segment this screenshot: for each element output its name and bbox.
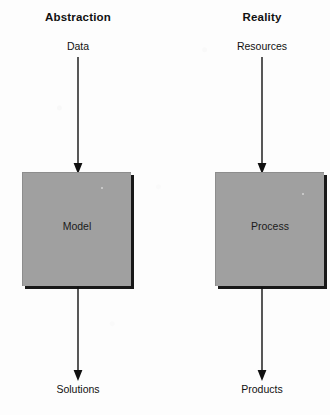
arrow-process-to-products (182, 287, 330, 382)
arrow-resources-to-process (182, 57, 330, 175)
scan-speck (101, 187, 103, 189)
flow-box-label-model: Model (23, 220, 131, 233)
column-header-abstraction: Abstraction (0, 10, 158, 24)
diagram-column-reality: Reality Resources Process Products (182, 0, 330, 415)
output-label-products: Products (182, 383, 330, 396)
diagram-canvas: Abstraction Data Model Solutions Reality… (0, 0, 330, 415)
column-header-reality: Reality (182, 10, 330, 24)
input-label-resources: Resources (182, 40, 330, 53)
arrow-data-to-model (0, 57, 158, 175)
flow-box-process: Process (215, 172, 324, 286)
flow-box-model: Model (22, 172, 131, 286)
scan-speck (302, 193, 304, 195)
flow-box-label-process: Process (216, 220, 324, 233)
arrow-model-to-solutions (0, 287, 158, 382)
input-label-data: Data (0, 40, 158, 53)
diagram-column-abstraction: Abstraction Data Model Solutions (0, 0, 158, 415)
output-label-solutions: Solutions (0, 383, 158, 396)
